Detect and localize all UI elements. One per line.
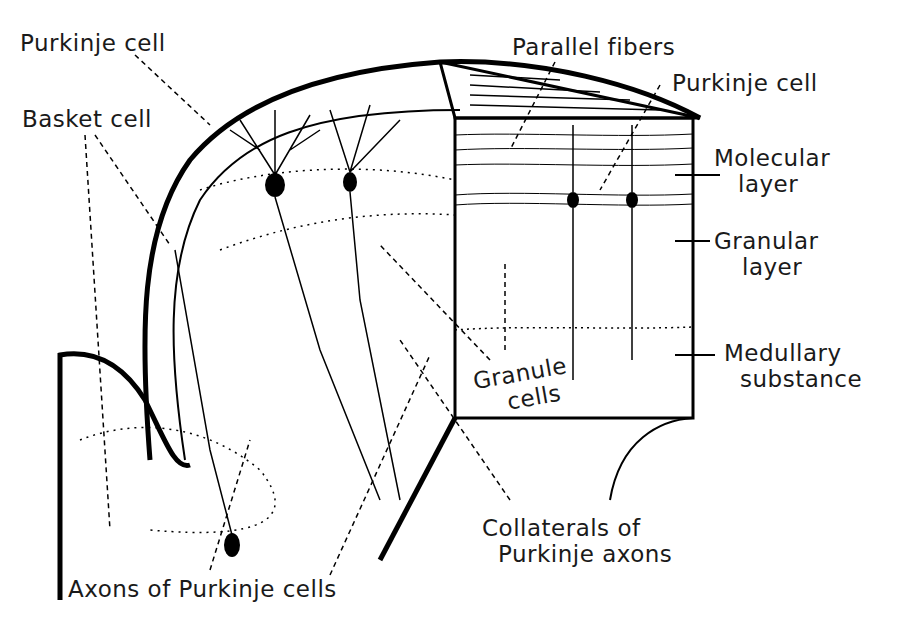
label-granular-layer: Granular layer (714, 228, 818, 281)
label-axons-of-purkinje-cells: Axons of Purkinje cells (68, 578, 337, 601)
label-line: layer (714, 254, 818, 280)
label-parallel-fibers: Parallel fibers (512, 36, 675, 59)
label-collaterals: Collaterals of Purkinje axons (482, 515, 672, 568)
label-molecular-layer: Molecular layer (714, 145, 830, 198)
label-line: Granular (714, 228, 818, 254)
label-line: Medullary (724, 340, 862, 366)
purkinje-cell-bodies (224, 172, 638, 557)
label-line: layer (714, 171, 830, 197)
label-purkinje-cell-right: Purkinje cell (672, 72, 818, 95)
label-medullary-substance: Medullary substance (724, 340, 862, 393)
label-basket-cell: Basket cell (22, 108, 152, 131)
inner-folium-outline (174, 110, 460, 460)
dotted-layers (80, 169, 455, 532)
label-line: Collaterals of (482, 515, 672, 541)
granular-boundary (455, 327, 693, 330)
label-line: Purkinje axons (482, 541, 672, 567)
left-fold (60, 354, 190, 600)
label-line: Molecular (714, 145, 830, 171)
label-purkinje-cell-left: Purkinje cell (20, 32, 166, 55)
label-line: substance (724, 366, 862, 392)
folium-outline (145, 62, 700, 460)
